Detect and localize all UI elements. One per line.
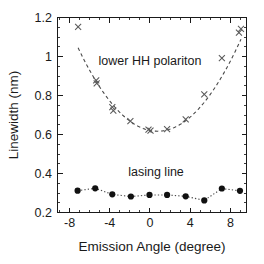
data-point-cross <box>127 118 133 124</box>
data-point-dot <box>109 191 115 197</box>
data-point-cross <box>201 91 207 97</box>
y-axis-title: Linewidth (nm) <box>6 71 21 160</box>
data-point-dot <box>92 185 98 191</box>
x-tick-label: 4 <box>187 216 194 230</box>
data-point-cross <box>145 127 151 133</box>
chart-annotations: lower HH polaritonlasing line <box>99 54 202 179</box>
y-axis-major-ticks <box>58 18 247 213</box>
y-tick-label: 0.4 <box>35 167 52 181</box>
data-point-dot <box>75 188 81 194</box>
x-axis-minor-ticks <box>60 18 241 213</box>
data-point-dot <box>201 197 207 203</box>
x-tick-label: 8 <box>227 216 234 230</box>
data-point-dot <box>183 193 189 199</box>
x-axis-tick-labels: -8-4048 <box>64 216 234 230</box>
chart-canvas: -8-4048 0.20.40.60.811.2 lower HH polari… <box>0 0 264 264</box>
y-tick-label: 0.2 <box>35 206 52 220</box>
data-point-dot <box>237 188 243 194</box>
lasing-line-label: lasing line <box>128 165 184 179</box>
lower-hh-polariton-label: lower HH polariton <box>99 54 202 68</box>
x-axis-major-ticks <box>70 18 231 213</box>
x-tick-label: -8 <box>64 216 75 230</box>
y-tick-label: 1.2 <box>35 11 52 25</box>
plot-frame <box>58 18 247 213</box>
x-tick-label: 0 <box>147 216 154 230</box>
figure-container: -8-4048 0.20.40.60.811.2 lower HH polari… <box>0 0 264 264</box>
fit-curve-2 <box>78 188 240 200</box>
x-tick-label: -4 <box>104 216 115 230</box>
y-axis-tick-labels: 0.20.40.60.811.2 <box>35 11 52 220</box>
data-point-cross <box>75 24 81 30</box>
data-point-dot <box>164 192 170 198</box>
data-point-cross <box>219 55 225 61</box>
data-point-dot <box>146 192 152 198</box>
data-point-dot <box>219 185 225 191</box>
y-tick-label: 0.8 <box>35 89 52 103</box>
y-tick-label: 1 <box>45 50 52 64</box>
data-point-dot <box>128 193 134 199</box>
data-point-cross <box>147 128 153 134</box>
x-axis-title: Emission Angle (degree) <box>78 239 225 254</box>
fit-curve-1 <box>78 39 241 131</box>
y-tick-label: 0.6 <box>35 128 52 142</box>
axes-box <box>58 18 247 213</box>
